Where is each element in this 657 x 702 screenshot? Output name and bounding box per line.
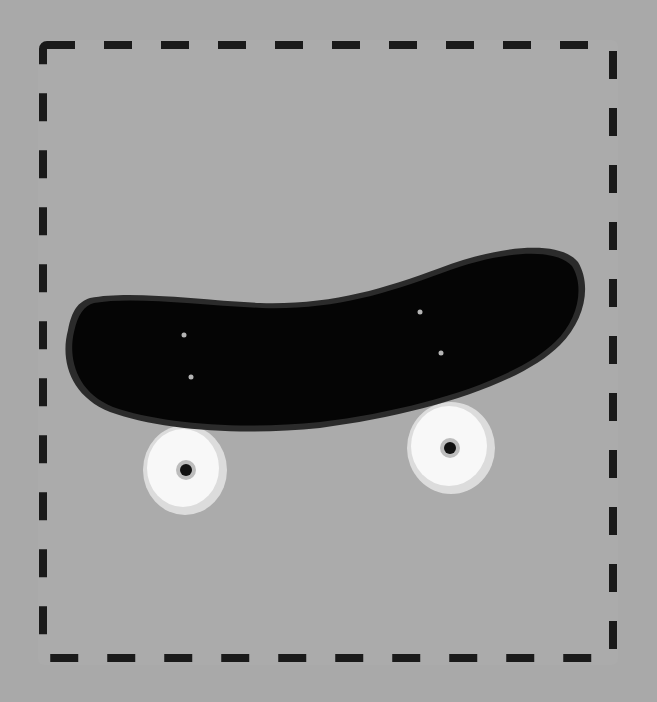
bolt-icon	[418, 310, 423, 315]
bolt-icon	[182, 333, 187, 338]
wheel-right	[407, 402, 495, 494]
skateboard-illustration	[0, 0, 657, 702]
wheel-left	[143, 425, 227, 515]
bolt-icon	[189, 375, 194, 380]
skateboard-deck	[65, 248, 585, 432]
bolt-icon	[439, 351, 444, 356]
